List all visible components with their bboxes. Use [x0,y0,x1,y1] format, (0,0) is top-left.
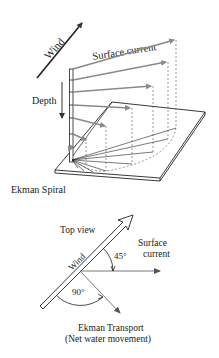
angle-arc-90 [57,296,103,305]
ekman-diagram: Wind Surface current Depth [0,0,219,358]
top-view: Top view Wind Surface current 45° 90° Ek… [40,215,170,345]
ekman-transport-arrow-icon [80,271,120,313]
ekman-spiral-caption: Ekman Spiral [11,184,66,195]
surface-current-label: Surface current [92,41,157,62]
surface-current-label-line1: Surface [138,238,167,248]
ekman-transport-label: Ekman Transport [78,323,144,333]
net-water-movement-label: (Net water movement) [65,334,151,345]
surface-current-label-line2: current [143,249,170,259]
ocean-plate [55,102,205,181]
top-view-title: Top view [60,225,96,235]
spiral-view: Wind Surface current Depth [11,23,205,195]
surface-current-arrow [73,40,174,69]
angle-45-label: 45° [114,251,127,261]
depth-label: Depth [32,95,56,106]
angle-90-label: 90° [72,287,85,297]
